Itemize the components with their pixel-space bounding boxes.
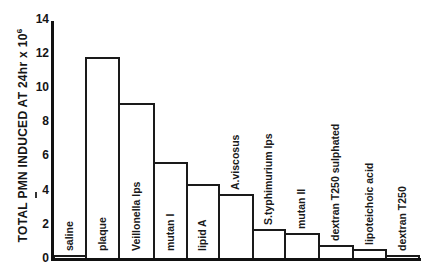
bar-label: dextran T250 — [396, 186, 408, 251]
y-tick-label: 0 — [33, 251, 49, 265]
y-axis-line — [51, 21, 54, 261]
bar — [252, 229, 286, 260]
bar — [284, 233, 320, 260]
y-tick-label: 10 — [33, 80, 49, 94]
y-tick-label: 12 — [33, 46, 49, 60]
y-tick-label: 2 — [33, 217, 49, 231]
bar-label: dextran T250 sulphated — [329, 124, 341, 241]
bar-label: Veillonella lps — [130, 182, 142, 251]
bar-label: plaque — [96, 217, 108, 251]
bar-label: lipid A — [196, 219, 208, 251]
bar-label: saline — [63, 221, 75, 251]
bar-chart: TOTAL PMN INDUCED AT 24hr x 106 02468101… — [0, 0, 441, 275]
bar-label: mutan I — [164, 214, 176, 251]
y-tick-label: 6 — [33, 148, 49, 162]
bar-label: S.typhimurium lps — [262, 133, 274, 225]
bar-label: lipoteichoic acid — [363, 162, 375, 244]
bar-label: mutan II — [295, 189, 307, 229]
y-tick-label: 4 — [33, 183, 49, 197]
bar — [218, 194, 254, 260]
bar-label: A.viscosus — [229, 135, 241, 190]
y-tick-label: 8 — [33, 114, 49, 128]
x-axis-line — [51, 258, 421, 261]
y-axis-label: TOTAL PMN INDUCED AT 24hr x 106 — [15, 16, 30, 256]
y-tick-label: 14 — [33, 12, 49, 26]
